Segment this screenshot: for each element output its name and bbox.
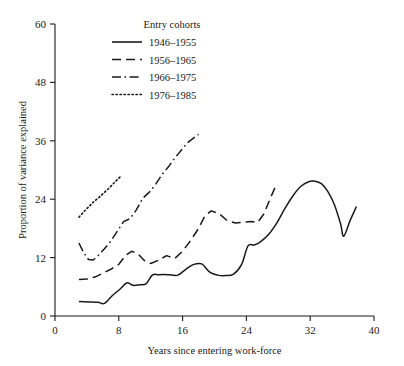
y-tick-label: 12	[35, 252, 46, 264]
legend-label-4: 1976–1985	[149, 90, 196, 101]
chart-container: 012243648600816243240Years since enterin…	[0, 0, 404, 366]
x-tick-label: 32	[305, 324, 316, 336]
legend-label-2: 1956–1965	[149, 55, 196, 66]
y-tick-label: 24	[35, 193, 47, 205]
x-tick-label: 0	[52, 324, 58, 336]
series-line-2	[79, 184, 277, 280]
series-line-1	[79, 181, 357, 304]
x-tick-label: 16	[177, 324, 189, 336]
series-line-3	[79, 134, 199, 260]
y-tick-label: 48	[35, 76, 47, 88]
y-tick-label: 0	[41, 310, 47, 322]
y-tick-label: 60	[35, 18, 47, 30]
y-tick-label: 36	[35, 135, 47, 147]
legend-title: Entry cohorts	[144, 19, 201, 30]
x-axis-title: Years since entering work-force	[148, 345, 282, 356]
series-line-4	[79, 176, 121, 217]
legend-label-1: 1946–1955	[149, 37, 196, 48]
x-tick-label: 8	[116, 324, 122, 336]
y-axis-title: Proportion of variance explained	[17, 100, 28, 239]
legend-label-3: 1966–1975	[149, 72, 196, 83]
x-tick-label: 24	[241, 324, 253, 336]
line-chart: 012243648600816243240Years since enterin…	[0, 0, 404, 366]
x-tick-label: 40	[369, 324, 381, 336]
